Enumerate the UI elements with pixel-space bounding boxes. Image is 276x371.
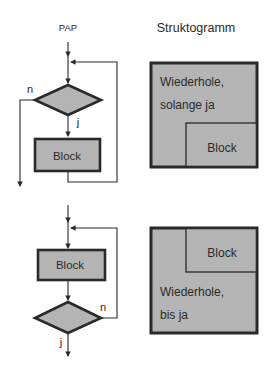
title-pap: PAP <box>59 22 77 33</box>
block-label: Block <box>53 150 81 162</box>
decision-diamond <box>35 85 101 115</box>
label-yes: j <box>59 336 62 348</box>
label-no: n <box>100 301 106 313</box>
bottom-pap: Block n j <box>35 205 117 356</box>
decision-diamond <box>35 302 101 333</box>
title-struktogramm: Struktogramm <box>157 21 236 35</box>
label-no: n <box>27 83 33 95</box>
condition-line-2: solange ja <box>160 98 215 112</box>
top-struktogramm: Wiederhole, solange ja Block <box>151 63 257 167</box>
bottom-struktogramm: Block Wiederhole, bis ja <box>151 228 257 333</box>
top-pap: n j Block <box>20 42 117 186</box>
block-label: Block <box>56 259 84 271</box>
condition-line-1: Wiederhole, <box>160 75 224 89</box>
no-branch-line <box>20 100 35 186</box>
block-label: Block <box>207 141 237 155</box>
condition-line-1: Wiederhole, <box>160 285 224 299</box>
block-label: Block <box>207 246 237 260</box>
label-yes: j <box>76 116 79 128</box>
diagram-canvas: PAP Struktogramm n j Block Wiederhole, s… <box>0 0 276 371</box>
condition-line-2: bis ja <box>160 308 188 322</box>
